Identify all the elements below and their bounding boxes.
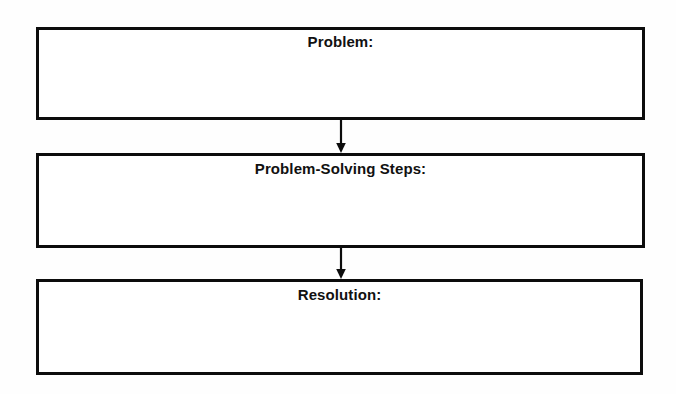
resolution-box[interactable]: Resolution: <box>36 279 643 375</box>
arrow-problem-to-steps <box>330 118 352 154</box>
problem-box[interactable]: Problem: <box>36 27 645 120</box>
problem-box-label: Problem: <box>39 33 642 50</box>
problem-solving-graphic-organizer: Problem: Problem-Solving Steps: Resoluti… <box>0 0 676 394</box>
down-arrow-icon <box>330 246 352 280</box>
problem-solving-steps-box-label: Problem-Solving Steps: <box>39 160 642 177</box>
problem-solving-steps-box[interactable]: Problem-Solving Steps: <box>36 153 645 248</box>
arrow-steps-to-resolution <box>330 246 352 280</box>
down-arrow-icon <box>330 118 352 154</box>
resolution-box-label: Resolution: <box>39 286 640 303</box>
